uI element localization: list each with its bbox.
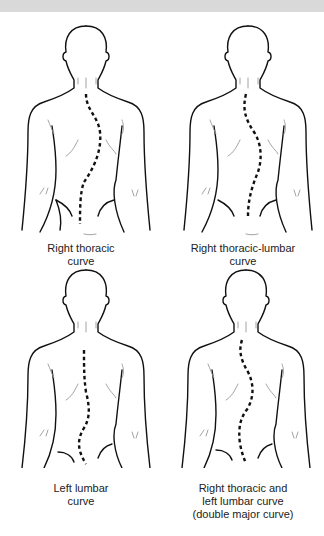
caption-line: Right thoracic-lumbar	[162, 242, 324, 255]
caption: Right thoracic-lumbar curve	[162, 242, 324, 268]
header-bar	[0, 0, 324, 12]
caption-line: Right thoracic and	[162, 482, 324, 495]
caption-line: Left lumbar	[0, 482, 162, 495]
caption-line: curve	[0, 495, 162, 508]
panel-double-major: Right thoracic and left lumbar curve (do…	[162, 268, 324, 536]
spine-curve	[244, 94, 260, 216]
spine-curve	[239, 340, 252, 464]
back-figure-icon	[162, 20, 324, 240]
spine-curve	[80, 94, 100, 224]
caption-line: left lumbar curve	[162, 495, 324, 508]
back-figure-icon	[0, 20, 162, 240]
caption: Right thoracic curve	[0, 242, 162, 268]
back-figure-icon	[0, 268, 162, 468]
caption: Left lumbar curve	[0, 482, 162, 508]
caption: Right thoracic and left lumbar curve (do…	[162, 482, 324, 521]
caption-line: curve	[162, 255, 324, 268]
caption-line: (double major curve)	[162, 508, 324, 521]
panel-left-lumbar: Left lumbar curve	[0, 268, 162, 536]
panel-right-thoracic: Right thoracic curve	[0, 20, 162, 270]
spine-curve	[79, 350, 89, 464]
back-figure-icon	[162, 268, 324, 468]
panel-right-thoracic-lumbar: Right thoracic-lumbar curve	[162, 20, 324, 270]
caption-line: Right thoracic	[0, 242, 162, 255]
caption-line: curve	[0, 255, 162, 268]
